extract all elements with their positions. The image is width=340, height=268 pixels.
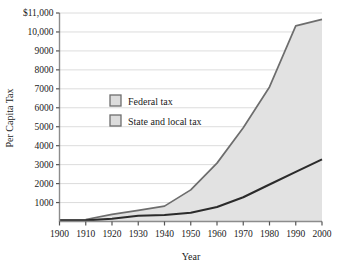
y-axis-title: Per Capita Tax bbox=[4, 88, 15, 147]
chart-container: $11,00010,000900080007000600050004000300… bbox=[0, 0, 340, 268]
y-tick-label: 5000 bbox=[35, 122, 54, 132]
x-tick-label: 1930 bbox=[129, 229, 148, 239]
y-tick-label: $11,000 bbox=[23, 8, 54, 18]
legend-label-federal-tax: Federal tax bbox=[128, 96, 173, 107]
y-tick-label: 4000 bbox=[35, 141, 54, 151]
y-tick-label: 10,000 bbox=[27, 27, 53, 37]
x-tick-label: 1960 bbox=[208, 229, 227, 239]
legend-label-state-and-local-tax: State and local tax bbox=[128, 116, 202, 127]
legend-swatch-state-and-local-tax bbox=[110, 115, 121, 126]
y-tick-label: 2000 bbox=[35, 179, 54, 189]
x-tick-label: 1910 bbox=[76, 229, 95, 239]
y-tick-label: 7000 bbox=[35, 84, 54, 94]
x-tick-label: 1920 bbox=[103, 229, 122, 239]
y-tick-label: 9000 bbox=[35, 46, 54, 56]
y-tick-label: 6000 bbox=[35, 103, 54, 113]
x-axis-title: Year bbox=[182, 251, 201, 262]
x-tick-label: 1900 bbox=[50, 229, 69, 239]
x-tick-label: 1950 bbox=[181, 229, 200, 239]
x-tick-label: 1940 bbox=[155, 229, 174, 239]
x-tick-label: 1990 bbox=[286, 229, 305, 239]
legend-item-federal-tax[interactable]: Federal tax bbox=[110, 95, 173, 107]
x-tick-label: 1970 bbox=[234, 229, 253, 239]
x-tick-label: 1980 bbox=[260, 229, 279, 239]
legend-swatch-federal-tax bbox=[110, 95, 121, 106]
tax-per-capita-area-chart: $11,00010,000900080007000600050004000300… bbox=[0, 0, 340, 268]
y-tick-label: 3000 bbox=[35, 160, 54, 170]
y-tick-label: 8000 bbox=[35, 65, 54, 75]
x-tick-label: 2000 bbox=[313, 229, 332, 239]
y-tick-label: 1000 bbox=[35, 198, 54, 208]
